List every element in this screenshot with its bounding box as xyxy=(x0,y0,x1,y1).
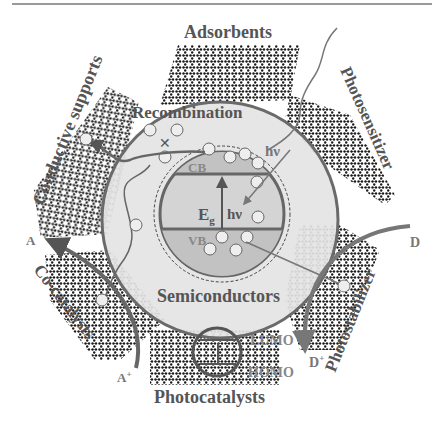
adsorbent-sheet xyxy=(160,45,300,105)
a-plus-label: A+ xyxy=(117,369,132,385)
d-label: D xyxy=(410,235,420,250)
support-electron xyxy=(80,133,92,145)
recombination-label: Recombination xyxy=(132,103,243,122)
hv-inner-label: hν xyxy=(227,206,242,222)
photocatalysis-diagram: CB VB Eg hν hν Recombination ✕ A A+ D D+… xyxy=(0,0,439,429)
transferred-hole xyxy=(338,280,350,292)
vb-label: VB xyxy=(188,233,206,248)
adsorbents-label: Adsorbents xyxy=(184,22,272,42)
recombination-cross: ✕ xyxy=(159,136,171,151)
cocatalyst-electron xyxy=(96,294,108,306)
photocatalysts-label: Photocatalysts xyxy=(154,387,265,407)
a-label: A xyxy=(26,233,36,248)
semiconductors-label: Semiconductors xyxy=(157,286,280,306)
lumo-label: LUMO xyxy=(250,333,294,348)
wave-electron xyxy=(130,219,142,231)
cb-label: CB xyxy=(188,160,206,175)
homo-label: HOMO xyxy=(248,365,294,380)
hv-outer-label: hν xyxy=(265,143,280,159)
